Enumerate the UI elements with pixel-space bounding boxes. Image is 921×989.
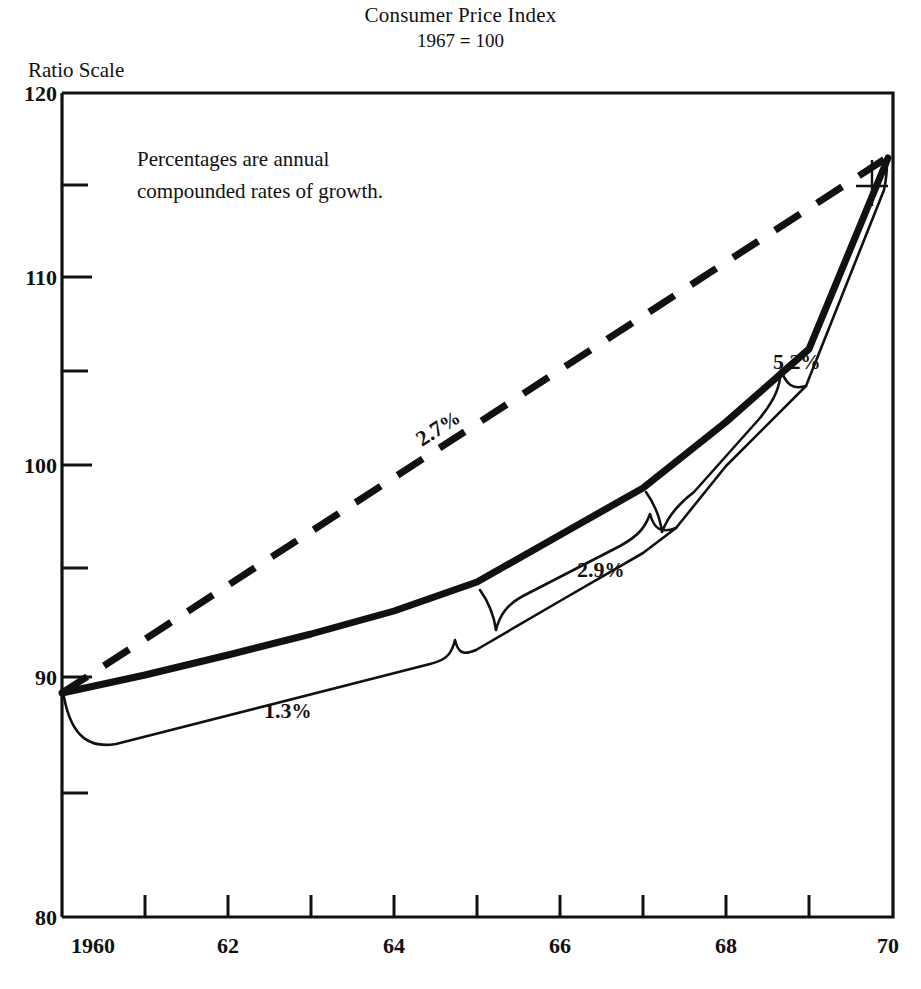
x-tick-label-70: 70 bbox=[877, 933, 899, 958]
brace-envelope-line bbox=[476, 163, 887, 650]
y-tick-label-110: 110 bbox=[25, 265, 57, 290]
x-tick-label-1960: 1960 bbox=[71, 933, 115, 958]
cpi-chart: Consumer Price Index 1967 = 100 Ratio Sc… bbox=[0, 0, 921, 989]
brace-5-2-pct bbox=[646, 370, 806, 532]
x-axis-ticks bbox=[145, 895, 809, 917]
y-tick-label-80: 80 bbox=[35, 905, 57, 930]
x-tick-label-62: 62 bbox=[217, 933, 239, 958]
segment-label-1-3: 1.3% bbox=[264, 698, 312, 723]
y-tick-label-90: 90 bbox=[35, 665, 57, 690]
segment-label-5-2: 5.2% bbox=[773, 349, 821, 374]
x-tick-label-68: 68 bbox=[715, 933, 737, 958]
x-tick-label-66: 66 bbox=[549, 933, 571, 958]
y-tick-label-100: 100 bbox=[24, 453, 57, 478]
annotation-note: Percentages are annual compounded rates … bbox=[137, 147, 383, 203]
trend-label-2-7: 2.7% bbox=[411, 404, 464, 451]
x-tick-label-64: 64 bbox=[383, 933, 405, 958]
cpi-series-line bbox=[62, 158, 888, 693]
chart-canvas: 120 110 100 90 80 1960 62 64 66 68 70 Pe… bbox=[0, 0, 921, 989]
plot-frame bbox=[62, 93, 893, 917]
y-tick-label-120: 120 bbox=[24, 81, 57, 106]
trend-line-dashed bbox=[62, 157, 888, 693]
note-line-2: compounded rates of growth. bbox=[137, 179, 383, 203]
y-axis-ticks bbox=[62, 185, 92, 793]
note-line-1: Percentages are annual bbox=[137, 147, 330, 171]
segment-label-2-9: 2.9% bbox=[577, 557, 625, 582]
